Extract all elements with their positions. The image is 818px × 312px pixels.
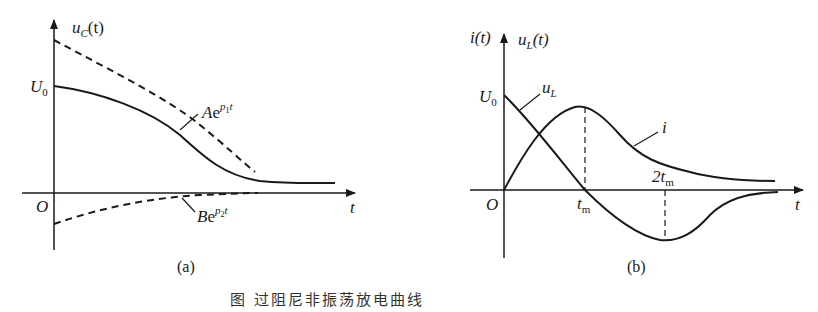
panel-b-curve-ul [504,95,778,240]
panel-a-x-axis-label: t [350,198,356,217]
panel-a-leader-aep1t [180,114,198,130]
panel-b-curve-i [504,107,775,190]
panel-b-ul-label: uL [542,78,557,99]
panel-b-y-axis-label-left: i(t) [470,28,491,47]
panel-b-2tm-label: 2tm [652,167,674,188]
panel-b-u0-label: U0 [479,87,497,108]
panel-a-curve-uc [54,86,335,183]
panel-b-x-axis-label: t [795,195,801,214]
panel-b: i(t) uL(t) U0 uL i O tm 2tm t (b) [470,28,803,276]
panel-b-origin-label: O [486,195,498,214]
panel-a-y-axis-label: uC(t) [72,18,104,39]
panel-a-u0-label: U0 [30,77,48,98]
panel-a: uC(t) U0 O t Aep1t Bep2t (a) [22,18,356,276]
panel-b-y-axis-label-right: uL(t) [518,30,549,51]
panel-b-tm-label: tm [577,194,591,215]
figure-caption: 图 过阻尼非振荡放电曲线 [230,288,570,312]
panel-b-leader-i [634,132,658,146]
panel-a-aep1t-label: Aep1t [201,100,233,122]
panel-b-i-label: i [662,118,667,137]
panel-b-leader-ul [520,94,540,110]
panel-a-caption-label: (a) [177,258,195,276]
panel-a-bep2t-label: Bep2t [197,204,228,226]
panel-a-leader-bep2t [182,198,195,212]
panel-a-origin-label: O [36,197,48,216]
panel-b-caption-label: (b) [627,258,646,276]
